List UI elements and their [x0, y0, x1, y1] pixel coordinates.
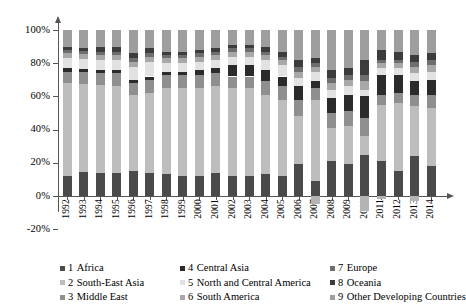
bar-segment — [327, 90, 336, 98]
bar-segment — [228, 57, 237, 65]
bar-segment — [394, 103, 403, 171]
bar-segment — [112, 73, 121, 86]
bar-stack — [360, 30, 369, 196]
legend-item-south-east-asia[interactable]: 2South-East Asia — [60, 277, 144, 289]
bar-segment-negative — [360, 196, 369, 211]
bar-segment — [278, 65, 287, 77]
bar-segment — [410, 55, 419, 62]
bar-segment — [278, 100, 287, 176]
x-axis-label: 2001 — [211, 199, 221, 219]
legend-item-europe[interactable]: 7Europe — [330, 262, 377, 274]
bar-segment — [228, 77, 237, 89]
bar-segment — [96, 70, 105, 73]
bar-segment — [145, 173, 154, 196]
bar-segment — [162, 55, 171, 58]
y-tick — [53, 96, 58, 97]
legend-swatch-icon — [60, 295, 65, 300]
bar-segment — [112, 60, 121, 70]
bar-segment — [145, 57, 154, 62]
legend-item-africa[interactable]: 1Africa — [60, 262, 104, 274]
legend-item-label: South-East Asia — [77, 277, 144, 289]
bar-segment — [211, 60, 220, 68]
bar-segment — [377, 68, 386, 75]
bar-segment — [278, 86, 287, 99]
x-axis-label: 1992 — [62, 199, 72, 219]
x-axis-label: 2008 — [327, 199, 337, 219]
legend-item-oceania[interactable]: 8Oceania — [330, 277, 381, 289]
bar-segment — [394, 75, 403, 93]
bar-segment — [162, 63, 171, 71]
legend-item-label: South America — [197, 291, 260, 303]
bar-segment — [377, 95, 386, 105]
bar-segment — [63, 176, 72, 196]
bar-segment — [195, 50, 204, 53]
legend-item-central-asia[interactable]: 4Central Asia — [180, 262, 249, 274]
legend-item-middle-east[interactable]: 3Middle East — [60, 291, 128, 303]
bar-segment — [427, 72, 436, 80]
bar-segment — [195, 30, 204, 50]
bar-segment — [195, 75, 204, 88]
x-axis-label: 2004 — [261, 199, 271, 219]
legend-item-number: 1 — [68, 262, 73, 274]
x-axis-label: 2000 — [194, 199, 204, 219]
y-axis-label: 60% — [2, 91, 50, 102]
bar-segment — [360, 60, 369, 75]
bar-segment — [427, 60, 436, 65]
bar-segment — [79, 72, 88, 83]
bar-segment — [96, 60, 105, 70]
bar-segment — [344, 30, 353, 68]
bar-segment — [178, 52, 187, 55]
bar-segment — [311, 67, 320, 72]
x-axis-label: 2013 — [410, 199, 420, 219]
bar-segment-negative — [410, 196, 419, 201]
legend-item-label: Africa — [77, 262, 104, 274]
bar-segment — [245, 45, 254, 48]
x-axis-label: 1995 — [112, 199, 122, 219]
bar-segment — [211, 173, 220, 196]
x-axis-label: 1998 — [161, 199, 171, 219]
legend-item-north-and-central-america[interactable]: 5North and Central America — [180, 277, 311, 289]
bar-segment — [377, 63, 386, 68]
bar-segment — [394, 68, 403, 75]
legend-item-label: Oceania — [347, 277, 381, 289]
bar-segment — [112, 173, 121, 196]
legend-swatch-icon — [180, 266, 185, 271]
y-axis-label: 40% — [2, 124, 50, 135]
bar-segment — [63, 50, 72, 53]
legend-item-south-america[interactable]: 6South America — [180, 291, 259, 303]
bar-segment — [178, 88, 187, 176]
bar-segment — [261, 70, 270, 82]
y-tick — [53, 229, 58, 230]
bar-segment — [377, 60, 386, 63]
bar-stack — [344, 30, 353, 196]
legend-swatch-icon — [180, 280, 185, 285]
y-axis-label: 0% — [2, 191, 50, 202]
bar-segment — [294, 164, 303, 196]
bar-segment — [427, 80, 436, 95]
y-axis-line — [58, 22, 59, 212]
bar-segment — [410, 95, 419, 107]
bar-segment — [178, 30, 187, 52]
legend-item-label: Europe — [347, 262, 377, 274]
bar-segment — [327, 78, 336, 83]
bar-segment — [228, 88, 237, 176]
legend-item-other-developing-countries[interactable]: 9Other Developing Countries — [330, 291, 466, 303]
bar-segment — [96, 47, 105, 52]
bar-segment — [96, 55, 105, 60]
bar-segment — [178, 176, 187, 196]
bar-stack — [427, 30, 436, 196]
bar-segment — [410, 73, 419, 81]
y-axis-label: 20% — [2, 157, 50, 168]
bar-segment — [311, 30, 320, 58]
bar-stack — [195, 30, 204, 196]
bar-segment — [129, 83, 138, 95]
bar-segment — [129, 58, 138, 61]
x-axis-label: 2003 — [244, 199, 254, 219]
bar-segment — [96, 85, 105, 173]
x-axis-label: 1999 — [178, 199, 188, 219]
bar-segment — [377, 50, 386, 60]
bar-segment — [245, 65, 254, 77]
x-axis-label: 2005 — [277, 199, 287, 219]
bar-segment — [394, 30, 403, 52]
